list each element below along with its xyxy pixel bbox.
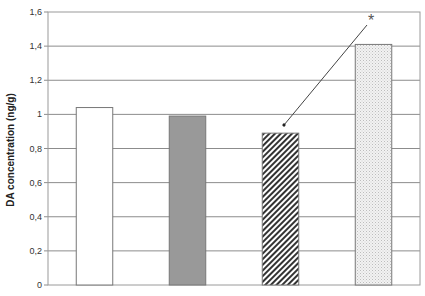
y-tick-label: 0,8: [29, 144, 42, 154]
y-tick-label: 0,6: [29, 178, 42, 188]
y-tick-label: 0: [37, 280, 42, 290]
annotation-arrow: [284, 25, 367, 125]
bar: [355, 44, 392, 285]
bar-chart: 00,20,40,60,811,21,41,6 DA concentration…: [0, 0, 425, 296]
bar: [262, 133, 299, 285]
y-tick-label: 1,6: [29, 7, 42, 17]
y-tick-label: 0,4: [29, 212, 42, 222]
y-tick-label: 0,2: [29, 246, 42, 256]
y-tick-label: 1,4: [29, 41, 42, 51]
bar: [169, 116, 206, 285]
significance-asterisk: *: [368, 12, 374, 29]
bar: [76, 108, 113, 285]
y-axis-ticks: 00,20,40,60,811,21,41,6: [29, 7, 48, 290]
y-axis-label: DA concentration (ng/g): [5, 93, 16, 207]
y-tick-label: 1,2: [29, 75, 42, 85]
y-tick-label: 1: [37, 109, 42, 119]
